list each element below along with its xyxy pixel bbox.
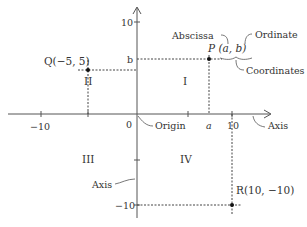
x-axis-annotation: Axis <box>267 120 288 131</box>
coordinate-plane-diagram: −10 0 a 10 10 b −10 P (a, b) Q(−5, 5) R(… <box>0 0 307 227</box>
ordinate-annotation: Ordinate <box>255 29 298 40</box>
coordinates-pointer <box>236 60 244 70</box>
x-axis-pointer <box>253 116 265 127</box>
point-p-label: P (a, b) <box>207 42 246 54</box>
origin-pointer <box>138 116 153 126</box>
point-q-label: Q(−5, 5) <box>44 55 90 67</box>
coordinates-annotation: Coordinates <box>246 65 305 76</box>
x-tick-label-a: a <box>206 120 212 131</box>
coordinates-brace <box>220 57 252 59</box>
y-tick-label-neg10: −10 <box>115 200 135 211</box>
y-tick-label-10: 10 <box>121 17 133 28</box>
origin-annotation: Origin <box>155 120 186 131</box>
abscissa-annotation: Abscissa <box>171 30 214 41</box>
y-axis <box>133 7 141 218</box>
x-tick-label-neg10: −10 <box>30 121 50 132</box>
quadrant-iii-label: III <box>82 153 94 165</box>
point-p <box>207 57 211 61</box>
point-r-label: R(10, −10) <box>236 184 294 196</box>
quadrant-iv-label: IV <box>180 153 192 165</box>
point-q <box>86 68 90 72</box>
point-r <box>230 203 234 207</box>
quadrant-i-label: I <box>183 75 187 87</box>
y-tick-label-b: b <box>127 54 133 65</box>
y-axis-annotation: Axis <box>91 179 112 190</box>
guide-lines <box>78 55 242 215</box>
x-tick-label-origin: 0 <box>126 119 132 130</box>
y-axis-pointer <box>115 179 135 184</box>
quadrant-ii-label: II <box>84 75 92 87</box>
x-tick-label-10: 10 <box>227 120 239 131</box>
